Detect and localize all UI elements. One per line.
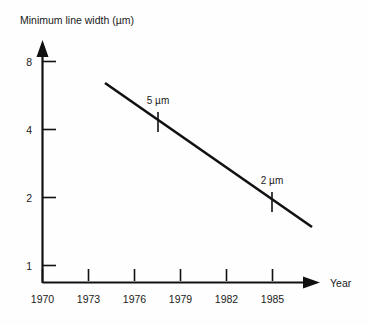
data-label-5um: 5 µm bbox=[147, 95, 169, 106]
x-tick-label-1973: 1973 bbox=[77, 293, 101, 305]
y-tick-label-2: 2 bbox=[26, 192, 32, 204]
trend-line bbox=[105, 83, 312, 227]
y-tick-label-8: 8 bbox=[26, 56, 32, 68]
y-tick-label-1: 1 bbox=[26, 260, 32, 272]
x-axis-arrow-icon bbox=[303, 277, 320, 289]
y-axis-arrow-icon bbox=[37, 40, 49, 57]
x-tick-label-1970: 1970 bbox=[31, 293, 55, 305]
x-tick-label-1979: 1979 bbox=[169, 293, 193, 305]
y-axis bbox=[37, 40, 49, 283]
y-tick-label-4: 4 bbox=[26, 124, 32, 136]
x-tick-label-1976: 1976 bbox=[123, 293, 147, 305]
data-series-line bbox=[105, 83, 312, 227]
chart-canvas: Minimum line width (µm) 8 4 2 1 1970 bbox=[0, 0, 369, 325]
x-tick-label-1982: 1982 bbox=[215, 293, 239, 305]
x-tick-label-1985: 1985 bbox=[261, 293, 285, 305]
data-label-2um: 2 µm bbox=[261, 175, 283, 186]
x-axis-ticks: 1970 1973 1976 1979 1982 1985 bbox=[31, 269, 285, 305]
chart-figure: Minimum line width (µm) 8 4 2 1 1970 bbox=[0, 0, 369, 325]
y-axis-ticks: 8 4 2 1 bbox=[26, 56, 56, 272]
x-axis-title: Year bbox=[330, 277, 352, 289]
y-axis-title: Minimum line width (µm) bbox=[20, 14, 134, 26]
